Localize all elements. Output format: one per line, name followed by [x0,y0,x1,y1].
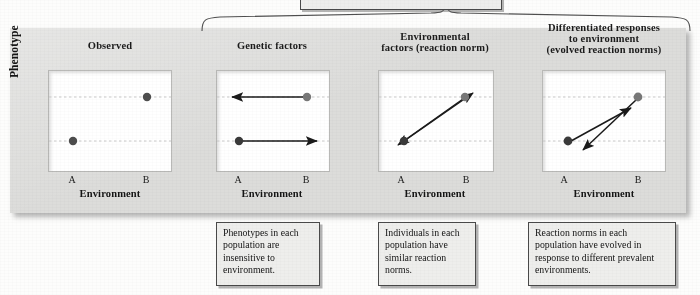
data-point-high [634,93,643,102]
reaction-norm-figure: Phenotype Observed A B Environment Genet… [0,0,700,295]
panel-title-line2: factors (reaction norm) [356,42,514,54]
data-point-low [69,137,77,145]
data-point-low [564,137,573,146]
x-axis-label: Environment [196,188,348,199]
x-tick-a: A [64,174,80,185]
panel-observed: Observed A B Environment [30,28,190,213]
x-axis-label: Environment [520,188,688,199]
x-tick-b: B [630,174,646,185]
caption-box-environmental: Individuals in each population have simi… [378,222,476,286]
x-axis-label: Environment [356,188,514,199]
plot-graphic-observed [49,71,171,171]
x-axis-label: Environment [30,188,190,199]
panel-title: Observed [30,40,190,52]
panel-title-line2: to environment [520,33,688,45]
panel-environmental-factors: Environmental factors (reaction norm) A … [356,28,514,213]
data-point-low [235,137,243,145]
x-tick-a: A [230,174,246,185]
x-tick-group: A B [542,174,664,187]
arrow-shallow-up-right [571,108,631,141]
panel-differentiated-responses: Differentiated responses to environment … [520,28,688,213]
panel-title-line3: (evolved reaction norms) [520,44,688,56]
panel-genetic-factors: Genetic factors A B Environment [196,28,348,213]
plot-area-environmental [378,70,494,172]
x-tick-a: A [556,174,572,185]
plot-area-genetic [216,70,330,172]
top-caption-box [300,0,502,10]
y-axis-label: Phenotype [8,0,24,78]
plot-graphic-genetic [217,71,329,171]
plot-area-observed [48,70,172,172]
data-point-high [143,93,151,101]
plot-area-differentiated [542,70,666,172]
plot-graphic-environmental [379,71,493,171]
x-tick-group: A B [48,174,170,187]
caption-box-genetic: Phenotypes in each population are insens… [216,222,320,286]
plot-graphic-differentiated [543,71,665,171]
panel-title: Genetic factors [196,40,348,52]
arrow-steep-down-left [583,100,636,150]
x-tick-b: B [138,174,154,185]
data-point-low [400,137,408,145]
panel-title-line1: Environmental [356,31,514,43]
x-tick-b: B [458,174,474,185]
x-tick-b: B [298,174,314,185]
x-tick-group: A B [216,174,328,187]
x-tick-group: A B [378,174,492,187]
caption-box-differentiated: Reaction norms in each population have e… [528,222,676,286]
data-point-high [461,93,469,101]
data-point-high [303,93,311,101]
x-tick-a: A [393,174,409,185]
